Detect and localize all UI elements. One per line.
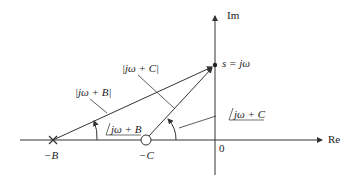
zero-label: −C (139, 150, 154, 161)
magnitude-B-label: |jω + B| (75, 87, 112, 98)
angle-arc-B (94, 121, 97, 140)
test-point (213, 63, 217, 67)
angle-arc-C (168, 119, 176, 140)
s-plane-diagram: Im Re 0 s = jω −B −C |jω + B| |jω + C| j… (0, 0, 355, 182)
origin-label: 0 (219, 143, 225, 154)
leader-mag-B (90, 99, 107, 113)
leader-mag-C (138, 75, 174, 108)
test-point-label: s = jω (222, 58, 250, 69)
magnitude-C-label: |jω + C| (122, 63, 159, 74)
angle-C-label: jω + C (234, 109, 265, 120)
imag-axis-label: Im (227, 10, 239, 21)
real-axis-label: Re (328, 134, 340, 145)
pole-label: −B (44, 150, 58, 161)
angle-B-label: jω + B (111, 124, 141, 135)
vector-C (149, 68, 212, 136)
zero-marker (141, 135, 151, 145)
leader-angle-C (179, 116, 216, 128)
